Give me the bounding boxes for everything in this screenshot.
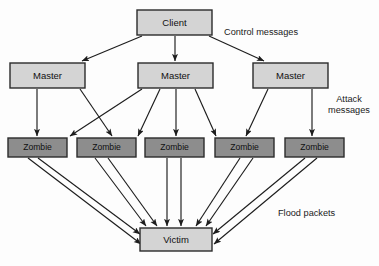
edge-master-zombie-2 — [80, 89, 112, 136]
control-messages-label: Control messages — [224, 27, 298, 37]
node-zombie-2[interactable]: Zombie — [77, 138, 136, 157]
edge-zombie-victim-2 — [38, 158, 140, 234]
edge-zombie-victim-3 — [95, 158, 146, 226]
edge-client-master-1 — [82, 36, 142, 61]
node-zombie-4-label: Zombie — [230, 142, 259, 152]
node-master-2[interactable]: Master — [138, 63, 213, 88]
node-zombie-1-label: Zombie — [23, 142, 52, 152]
attack-messages-label: Attackmessages — [328, 94, 370, 115]
node-zombie-3[interactable]: Zombie — [145, 138, 204, 157]
annotation-group: Control messagesAttackmessagesFlood pack… — [224, 27, 370, 218]
edge-master-zombie-6 — [195, 89, 216, 136]
ddos-diagram: ClientMasterMasterMasterZombieZombieZomb… — [0, 0, 379, 266]
node-zombie-5-label: Zombie — [300, 142, 329, 152]
diagram-canvas: ClientMasterMasterMasterZombieZombieZomb… — [0, 0, 379, 266]
edge-zombie-victim-7 — [196, 158, 240, 226]
node-master-3-label: Master — [276, 70, 305, 81]
flood-packets-label: Flood packets — [278, 208, 336, 218]
edge-zombie-victim-8 — [206, 158, 253, 226]
edge-master-zombie-4 — [138, 89, 160, 136]
edge-zombie-victim-10 — [214, 158, 317, 244]
node-zombie-1[interactable]: Zombie — [8, 138, 67, 157]
edge-zombie-victim-1 — [28, 158, 141, 244]
edge-group-attack-messages — [37, 89, 312, 136]
edge-group-control-messages — [82, 36, 264, 61]
edge-client-master-3 — [209, 36, 264, 61]
node-zombie-4[interactable]: Zombie — [215, 138, 274, 157]
node-client-label: Client — [162, 17, 187, 28]
node-zombie-5[interactable]: Zombie — [285, 138, 344, 157]
node-zombie-2-label: Zombie — [92, 142, 121, 152]
node-master-3[interactable]: Master — [253, 63, 328, 88]
node-victim-label: Victim — [163, 234, 189, 245]
edge-master-zombie-3 — [70, 89, 142, 136]
edge-master-zombie-7 — [246, 89, 268, 136]
node-victim[interactable]: Victim — [140, 228, 212, 251]
node-master-2-label: Master — [161, 70, 190, 81]
node-zombie-3-label: Zombie — [160, 142, 189, 152]
node-client[interactable]: Client — [137, 10, 212, 35]
node-master-1-label: Master — [33, 70, 62, 81]
node-master-1[interactable]: Master — [10, 63, 85, 88]
